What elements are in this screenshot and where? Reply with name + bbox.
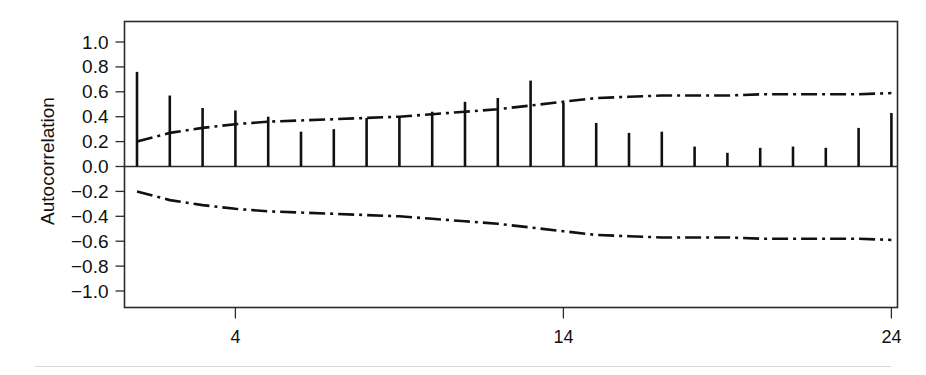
y-tick-label: 0.8 — [82, 56, 108, 77]
y-tick-label: −0.6 — [71, 231, 109, 252]
y-tick-label: 0.6 — [82, 81, 108, 102]
y-tick-label: 0.4 — [82, 106, 109, 127]
plot-background — [125, 22, 898, 308]
x-tick-label: 14 — [553, 327, 573, 347]
y-tick-label: −0.4 — [71, 206, 109, 227]
y-tick-label: −0.2 — [71, 181, 109, 202]
y-tick-label: 0.0 — [82, 156, 108, 177]
x-tick-label: 4 — [230, 327, 240, 347]
acf-figure: Autocorrelation 1.00.80.60.40.20.0−0.2−0… — [0, 0, 926, 375]
y-tick-label: −0.8 — [71, 256, 109, 277]
y-tick-label: 0.2 — [82, 131, 108, 152]
footer-rule — [35, 366, 891, 367]
x-tick-label: 24 — [881, 327, 901, 347]
y-tick-label: 1.0 — [82, 32, 108, 53]
acf-plot-canvas: 1.00.80.60.40.20.0−0.2−0.4−0.6−0.8−1.041… — [0, 0, 926, 375]
y-tick-label: −1.0 — [71, 281, 109, 302]
